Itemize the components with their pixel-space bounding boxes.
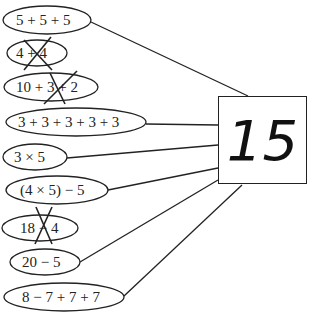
line-3x5 — [67, 145, 218, 158]
expression-1: 4 + 4 — [16, 44, 47, 62]
target-number-box: 15 — [218, 96, 307, 184]
expression-0: 5 + 5 + 5 — [16, 11, 70, 29]
line-5-5-5 — [91, 22, 248, 96]
line-3x5-sum — [146, 124, 218, 125]
line-4x5-5 — [108, 168, 218, 190]
expression-8: 8 − 7 + 7 + 7 — [22, 288, 100, 306]
target-number: 15 — [227, 108, 298, 173]
line-20-5 — [80, 180, 218, 262]
expression-4: 3 × 5 — [14, 148, 45, 166]
line-8-7-7-7 — [124, 185, 242, 296]
expression-2: 10 + 3 + 2 — [16, 78, 78, 96]
expression-3: 3 + 3 + 3 + 3 + 3 — [18, 113, 119, 131]
expression-6: 18 − 4 — [20, 219, 58, 237]
expression-7: 20 − 5 — [22, 253, 60, 271]
expression-5: (4 × 5) − 5 — [20, 181, 84, 199]
